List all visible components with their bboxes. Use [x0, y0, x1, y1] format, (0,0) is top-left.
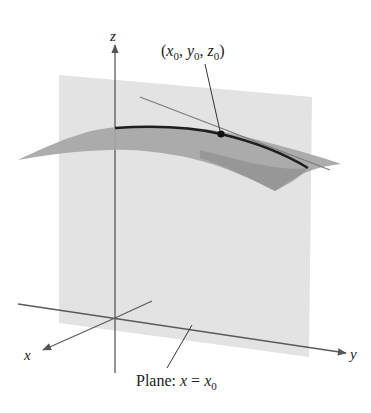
plane-label: Plane: x = x0: [136, 372, 217, 392]
z-axis-label: z: [109, 28, 116, 44]
x-axis-label: x: [23, 347, 31, 363]
point-x0-y0-z0: [217, 130, 224, 137]
plane-x-equals-x0: [59, 75, 312, 357]
figure-canvas: z y x (x0, y0, z0) Plane: x = x0: [0, 0, 371, 413]
y-axis-label: y: [348, 346, 357, 362]
diagram-svg: z y x (x0, y0, z0) Plane: x = x0: [0, 0, 371, 413]
point-label: (x0, y0, z0): [161, 42, 225, 62]
